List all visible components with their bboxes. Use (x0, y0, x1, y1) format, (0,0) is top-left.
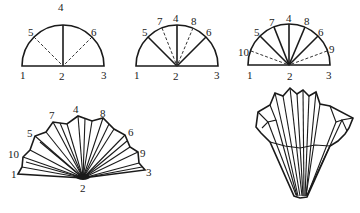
step-3-point-label: 1 (247, 69, 253, 81)
filter-folding-diagram: 123456123456781234567891012345678910 (0, 0, 360, 213)
step-1-point-label: 6 (91, 26, 97, 38)
step-1-point-label: 5 (28, 26, 34, 38)
step-4-fan-point-label: 2 (80, 182, 86, 194)
step-4-fan-point-label: 5 (27, 127, 33, 139)
step-1-point-label: 2 (59, 70, 65, 82)
step-4-fan-point-label: 4 (73, 103, 79, 115)
step-3-point-label: 8 (304, 15, 310, 27)
step-4-fan-point-label: 6 (128, 126, 134, 138)
step-1-point-label: 1 (20, 69, 26, 81)
step-2-point-label: 1 (134, 69, 140, 81)
step-4-fan-point-label: 10 (8, 148, 20, 160)
step-3-point-label: 7 (269, 16, 275, 28)
step-2-point-label: 4 (173, 12, 179, 24)
step-4-pleated-fan (18, 116, 145, 180)
step-1-point-label: 3 (101, 69, 107, 81)
step-4-fan-point-label: 3 (146, 166, 152, 178)
step-3-point-label: 5 (254, 26, 260, 38)
step-2-point-label: 8 (191, 15, 197, 27)
step-2-point-label: 6 (206, 26, 212, 38)
step-4-fan-point-label: 1 (11, 168, 17, 180)
step-2-point-label: 7 (157, 15, 163, 27)
step-4-fan-point-label: 9 (140, 147, 146, 159)
step-3-point-label: 10 (238, 46, 250, 58)
step-3-point-label: 9 (329, 43, 335, 55)
step-1-point-label: 4 (58, 1, 64, 13)
step-4-fan-point-label: 8 (100, 107, 106, 119)
step-2-point-label: 5 (142, 26, 148, 38)
step-5-folded-filter-cone (256, 88, 353, 198)
point-labels: 123456123456781234567891012345678910 (8, 1, 335, 194)
step-3-point-label: 3 (326, 69, 332, 81)
step-3-point-label: 6 (318, 26, 324, 38)
step-3-point-label: 2 (287, 70, 293, 82)
step-4-fan-point-label: 7 (49, 109, 55, 121)
step-3-point-label: 4 (286, 12, 292, 24)
step-2-point-label: 3 (214, 69, 220, 81)
step-2-point-label: 2 (173, 70, 179, 82)
